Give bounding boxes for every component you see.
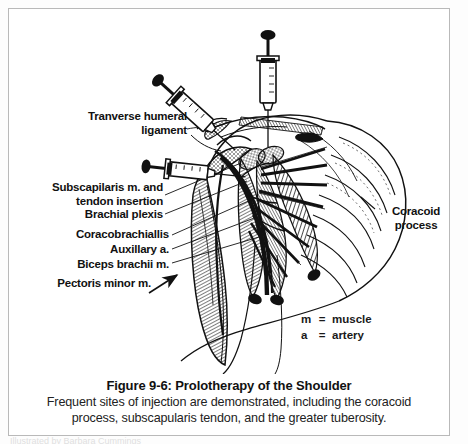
figure-title: Figure 9-6: Prolotherapy of the Shoulder xyxy=(9,378,449,394)
label-transverse-humeral-ligament-line2: ligament xyxy=(65,124,187,138)
label-brachial-plexis: Brachial plexis xyxy=(43,208,163,221)
legend-equals-muscle: = xyxy=(316,311,332,327)
abbreviation-legend: m = muscle a = artery xyxy=(301,311,376,343)
figure-page: Tranverse humeral ligament Subscapilaris… xyxy=(0,0,468,444)
figure-caption-block: Figure 9-6: Prolotherapy of the Shoulder… xyxy=(9,378,449,426)
figure-caption-line-1: Frequent sites of injection are demonstr… xyxy=(9,395,449,411)
label-coracoid-process-line2: process xyxy=(381,219,449,233)
illustration-area: Tranverse humeral ligament Subscapilaris… xyxy=(9,9,449,374)
legend-symbol-muscle: m xyxy=(301,311,316,327)
label-transverse-humeral-ligament-line1: Tranverse humeral xyxy=(65,110,187,124)
legend-equals-artery: = xyxy=(316,327,332,343)
leader-pectoris-minor-arrow xyxy=(149,275,177,293)
label-subscapularis-line1: Subscapilaris m. and xyxy=(33,181,163,195)
label-biceps-brachii: Biceps brachii m. xyxy=(33,258,169,271)
label-coracoid-process-line1: Coracoid xyxy=(381,205,449,219)
legend-row-artery: a = artery xyxy=(301,327,376,343)
leader-coracoid-process xyxy=(361,197,375,209)
label-auxillary-artery: Auxillary a. xyxy=(49,243,169,256)
figure-caption-line-2: process, subscapularis tendon, and the g… xyxy=(9,411,449,427)
legend-meaning-artery: artery xyxy=(332,327,376,343)
legend-row-muscle: m = muscle xyxy=(301,311,376,327)
label-transverse-humeral-ligament: Tranverse humeral ligament xyxy=(65,110,187,137)
label-subscapularis-line2: tendon insertion xyxy=(33,195,163,209)
page-bleed-text: Illustrated by Barbara Cummings xyxy=(10,436,220,444)
label-coracobrachiallis: Coracobrachiallis xyxy=(29,228,169,241)
label-pectoris-minor: Pectoris minor m. xyxy=(23,277,151,290)
label-subscapularis: Subscapilaris m. and tendon insertion xyxy=(33,181,163,208)
label-coracoid-process: Coracoid process xyxy=(381,205,449,232)
legend-meaning-muscle: muscle xyxy=(332,311,376,327)
legend-symbol-artery: a xyxy=(301,327,316,343)
